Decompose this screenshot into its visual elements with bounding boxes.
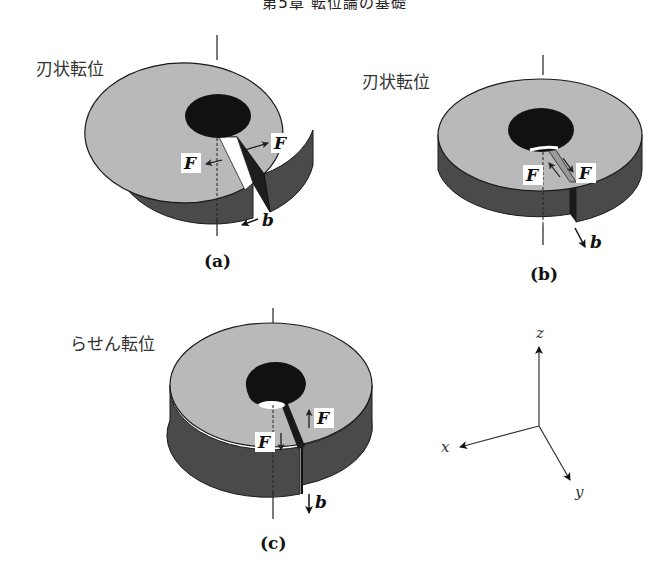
panel-c-hole: [246, 362, 306, 404]
panel-a-force-label-left: F: [183, 153, 198, 173]
panel-c-force-label-left: F: [257, 432, 272, 452]
panel-b: 刃状転位 F F b (b): [362, 55, 642, 284]
panel-c-title: らせん転位: [70, 334, 155, 354]
panel-a-title: 刃状転位: [36, 59, 104, 79]
panel-b-force-label-left: F: [525, 165, 540, 185]
panel-b-sublabel: (b): [530, 264, 558, 284]
y-axis-label: y: [574, 483, 584, 501]
panel-a-hole: [185, 94, 251, 138]
panel-b-hole: [508, 108, 574, 152]
panel-b-burgers-label: b: [590, 232, 602, 252]
y-axis-arrow: [539, 426, 570, 480]
panel-c: らせん転位 F F b (c): [70, 308, 372, 553]
panel-a-burgers-label: b: [262, 210, 274, 230]
panel-b-title: 刃状転位: [362, 72, 430, 92]
coordinate-axes: z x y: [441, 324, 584, 501]
dislocation-figure: 刃状転位 F F b (a) 刃状転位: [0, 0, 669, 582]
panel-c-force-label-right: F: [316, 408, 331, 428]
panel-a-sublabel: (a): [204, 251, 231, 271]
panel-c-sublabel: (c): [260, 533, 286, 553]
panel-a-force-label-right: F: [273, 133, 288, 153]
x-axis-arrow: [460, 426, 539, 447]
z-axis-label: z: [535, 324, 544, 342]
panel-b-force-label-right: F: [578, 163, 593, 183]
panel-b-burgers-arrow: [575, 228, 585, 247]
panel-a: 刃状転位 F F b (a): [36, 35, 313, 271]
x-axis-label: x: [441, 438, 450, 456]
panel-c-burgers-label: b: [315, 492, 327, 512]
